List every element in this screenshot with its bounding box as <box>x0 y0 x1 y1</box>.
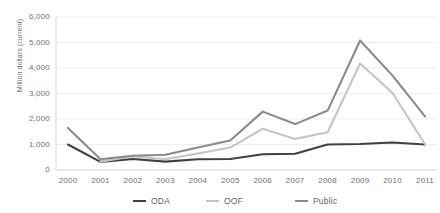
legend-item-public[interactable]: Public <box>295 196 337 206</box>
y-tick-label: 2,000 <box>10 114 50 123</box>
legend-swatch-icon <box>295 200 308 202</box>
legend-swatch-icon <box>206 200 219 202</box>
line-chart: Million dollars (current) 01,0002,0003,0… <box>0 0 440 213</box>
legend-label: OOF <box>224 196 243 206</box>
legend-label: Public <box>313 196 337 206</box>
chart-legend: ODAOOFPublic <box>0 193 440 211</box>
legend-swatch-icon <box>133 200 146 202</box>
series-layer <box>68 40 425 161</box>
gridlines <box>56 17 437 170</box>
legend-label: ODA <box>151 196 170 206</box>
y-tick-label: 0 <box>10 165 50 174</box>
legend-item-oda[interactable]: ODA <box>133 196 170 206</box>
y-tick-label: 4,000 <box>10 63 50 72</box>
y-tick-label: 5,000 <box>10 38 50 47</box>
x-tick-label: 2011 <box>405 176 440 185</box>
y-tick-label: 1,000 <box>10 140 50 149</box>
legend-item-oof[interactable]: OOF <box>206 196 243 206</box>
y-tick-label: 6,000 <box>10 12 50 21</box>
y-tick-label: 3,000 <box>10 89 50 98</box>
series-line-public <box>68 40 425 159</box>
